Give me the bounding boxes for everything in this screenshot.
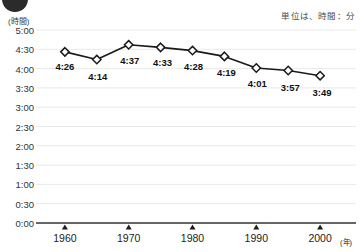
data-point-value-label: 3:57	[281, 82, 300, 93]
data-point-marker	[125, 41, 133, 49]
data-point-value-label: 4:37	[120, 55, 139, 66]
x-axis-tick-label: 1990	[245, 232, 268, 244]
x-axis-tick-marker	[126, 225, 132, 230]
x-axis-tick-marker	[317, 225, 323, 230]
data-point-value-label: 4:19	[217, 67, 236, 78]
data-point-value-label: 4:14	[88, 71, 107, 82]
x-axis-caption: (年)	[340, 236, 352, 247]
x-axis-tick-label: 1980	[181, 232, 204, 244]
x-axis-tick-marker	[190, 225, 196, 230]
data-point-marker	[316, 71, 324, 79]
x-axis-tick-marker	[253, 225, 259, 230]
data-point-value-label: 4:26	[55, 61, 74, 72]
data-point-marker	[156, 43, 164, 51]
x-axis-tick-marks	[62, 225, 323, 230]
data-point-value-label: 4:28	[184, 61, 203, 72]
chart-page: 単位は、時間：分 (時間) 5:004:304:003:303:002:302:…	[0, 0, 361, 252]
x-axis-tick-marker	[62, 225, 68, 230]
data-point-marker	[252, 64, 260, 72]
data-point-marker	[284, 66, 292, 74]
line-chart-plot	[0, 0, 361, 252]
x-axis-tick-label: 1970	[117, 232, 140, 244]
data-point-value-label: 3:49	[313, 87, 332, 98]
data-point-value-label: 4:33	[153, 57, 172, 68]
x-axis-tick-label: 1960	[53, 232, 76, 244]
data-point-value-label: 4:01	[248, 78, 267, 89]
x-axis-tick-label: 2000	[308, 232, 331, 244]
data-point-marker	[220, 52, 228, 60]
data-point-marker	[93, 55, 101, 63]
data-point-marker	[188, 46, 196, 54]
